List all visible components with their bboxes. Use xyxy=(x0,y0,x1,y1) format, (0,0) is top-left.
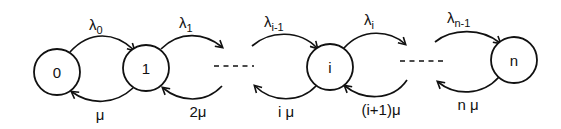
arc-i-plus-1-mu xyxy=(345,80,407,97)
state-label: i xyxy=(328,59,331,76)
arc-lambda-i xyxy=(344,33,405,48)
label-i-mu: i μ xyxy=(278,103,294,120)
label-n-mu: n μ xyxy=(457,96,478,113)
arc-i-mu xyxy=(255,86,316,99)
state-label: 1 xyxy=(142,60,150,77)
state-node-n: n xyxy=(491,37,537,83)
state-transition-diagram: 0 1 i n λ0 λ1 λi-1 λi λn-1 μ 2μ i μ (i+1… xyxy=(0,0,561,129)
label-lambda-n-1: λn-1 xyxy=(447,9,470,29)
arc-lambda-n-1 xyxy=(435,32,500,43)
label-lambda-0: λ0 xyxy=(89,16,103,36)
label-2mu: 2μ xyxy=(190,103,207,120)
arc-lambda-0 xyxy=(70,36,134,52)
arc-2mu xyxy=(163,86,222,99)
state-label: n xyxy=(510,52,518,69)
state-label: 0 xyxy=(53,64,61,81)
state-node-i: i xyxy=(307,44,353,90)
state-node-0: 0 xyxy=(34,49,80,95)
arc-n-mu xyxy=(438,77,499,92)
arc-lambda-1 xyxy=(161,36,222,49)
state-node-1: 1 xyxy=(123,45,169,91)
arc-lambda-i-1 xyxy=(252,34,317,48)
arc-mu xyxy=(72,88,133,101)
label-lambda-1: λ1 xyxy=(179,14,193,34)
label-mu: μ xyxy=(96,106,105,123)
label-lambda-i: λi xyxy=(364,11,374,31)
label-lambda-i-1: λi-1 xyxy=(264,13,284,33)
label-i-plus-1-mu: (i+1)μ xyxy=(361,101,400,118)
